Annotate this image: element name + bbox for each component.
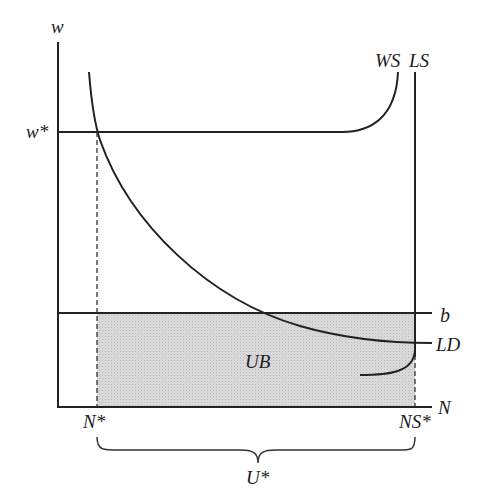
ld-label: LD: [435, 334, 461, 355]
ls-label: LS: [408, 50, 430, 71]
w-star-label: w*: [26, 121, 49, 142]
ns-star-label: NS*: [398, 411, 431, 432]
ld-curve: [89, 72, 432, 343]
ub-label: UB: [245, 351, 271, 372]
b-label: b: [440, 304, 450, 326]
labour-market-diagram: w w* WS LS b LD UB N N* NS* U*: [0, 0, 482, 503]
u-star-label: U*: [246, 467, 270, 488]
ws-label: WS: [375, 50, 401, 71]
n-star-label: N*: [82, 411, 106, 432]
ws-curve: [58, 72, 398, 132]
y-axis-label: w: [51, 16, 64, 37]
x-axis-label: N: [437, 397, 452, 418]
unemployment-brace: [97, 437, 415, 463]
